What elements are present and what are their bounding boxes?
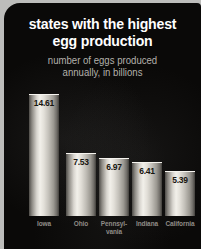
chart-panel: states with the highest egg production n… [4, 3, 201, 249]
category-label-line: vania [92, 228, 136, 236]
bar-group: 5.39California [165, 171, 195, 216]
bar-group: 6.41Indiana [132, 162, 162, 216]
bar-value-label: 6.97 [99, 162, 129, 172]
category-label-line: California [158, 220, 201, 228]
bar-value-label: 5.39 [165, 175, 195, 185]
bar-group: 6.97Pennsyl-vania [99, 158, 129, 216]
bar: 7.53 [66, 153, 96, 216]
egg-production-infographic: states with the highest egg production n… [0, 0, 201, 249]
bar-chart-plot: 14.61Iowa7.53Ohio6.97Pennsyl-vania6.41In… [4, 3, 201, 249]
bar: 5.39 [165, 171, 195, 216]
bar: 14.61 [29, 94, 59, 216]
bar: 6.97 [99, 158, 129, 216]
bar: 6.41 [132, 162, 162, 216]
bar-value-label: 6.41 [132, 166, 162, 176]
bar-group: 14.61Iowa [29, 94, 59, 216]
bar-group: 7.53Ohio [66, 153, 96, 216]
bar-value-label: 14.61 [29, 98, 59, 108]
bar-value-label: 7.53 [66, 157, 96, 167]
category-label: California [158, 220, 201, 228]
